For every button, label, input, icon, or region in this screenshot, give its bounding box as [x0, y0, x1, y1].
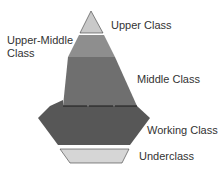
layer-upper-middle-class — [68, 35, 115, 57]
layer-working-class-flank — [50, 100, 63, 106]
layer-middle-class — [63, 57, 137, 106]
class-pyramid-diagram: Upper Class Upper-Middle Class Middle Cl… — [0, 0, 222, 173]
label-working-class: Working Class — [147, 124, 218, 136]
label-upper-class: Upper Class — [111, 19, 172, 31]
label-upper-middle-class-line2: Class — [7, 47, 35, 59]
label-upper-middle-class-line1: Upper-Middle — [7, 34, 73, 46]
layer-underclass — [60, 149, 129, 163]
label-middle-class: Middle Class — [137, 73, 200, 85]
layer-upper-class — [80, 11, 103, 33]
label-underclass: Underclass — [139, 150, 195, 162]
layer-working-class — [38, 106, 150, 145]
